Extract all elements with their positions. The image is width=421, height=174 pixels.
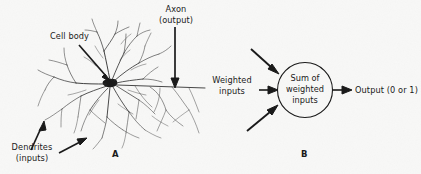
panel-letter-a: A <box>112 149 119 159</box>
label-dendrites: Dendrites (inputs) <box>4 142 60 163</box>
neuron-figure: Cell body Axon (output) Dendrites (input… <box>0 0 421 174</box>
label-cell-body: Cell body <box>50 31 89 42</box>
label-node-line3: inputs <box>276 95 334 106</box>
label-axon-line2: (output) <box>150 15 202 26</box>
label-output: Output (0 or 1) <box>355 85 418 96</box>
label-weighted-inputs-line2: inputs <box>206 86 258 97</box>
label-node-line2: weighted <box>276 84 334 95</box>
label-node-line1: Sum of <box>276 73 334 84</box>
label-weighted-inputs-line1: Weighted <box>206 75 258 86</box>
panel-letter-b: B <box>301 149 307 159</box>
label-axon-line1: Axon <box>150 4 202 15</box>
label-dendrites-line1: Dendrites <box>4 142 60 153</box>
label-dendrites-line2: (inputs) <box>4 153 60 164</box>
label-summation-node: Sum of weighted inputs <box>276 73 334 106</box>
label-weighted-inputs: Weighted inputs <box>206 75 258 96</box>
label-axon: Axon (output) <box>150 4 202 25</box>
label-cell-body-text: Cell body <box>50 31 89 41</box>
